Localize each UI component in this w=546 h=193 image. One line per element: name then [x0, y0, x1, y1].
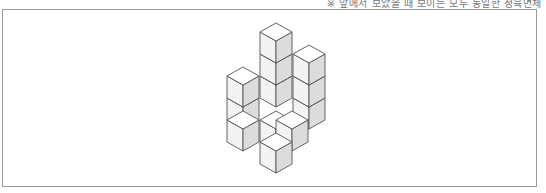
- cube: [227, 111, 259, 151]
- cube-structure-figure: [0, 0, 546, 193]
- cube: [227, 67, 259, 107]
- cube: [293, 45, 325, 85]
- cube: [260, 23, 292, 63]
- cube: [260, 133, 292, 173]
